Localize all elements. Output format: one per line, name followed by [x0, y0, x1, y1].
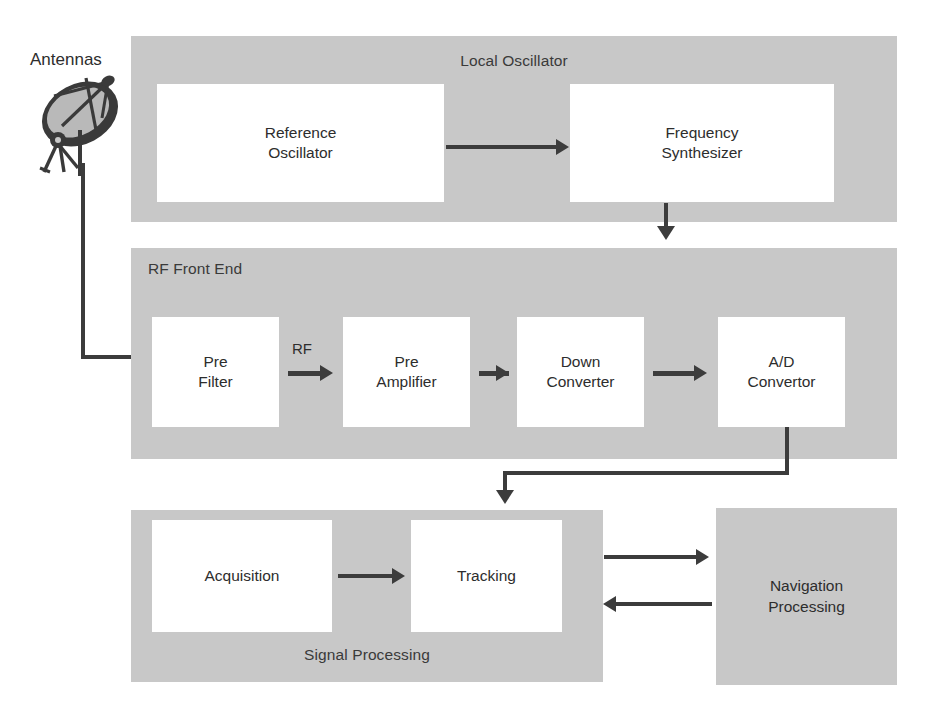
arrow-acquisition-to-tracking-head: [392, 568, 405, 584]
block-navigation-processing-line1: Navigation: [768, 576, 845, 596]
block-pre-filter-line2: Filter: [198, 372, 232, 392]
block-tracking-line1: Tracking: [457, 566, 516, 586]
block-navigation-processing-line2: Processing: [768, 597, 845, 617]
rf-signal-label: RF: [292, 340, 312, 357]
diagram-canvas: Antennas Loc: [0, 0, 932, 725]
arrow-adconv-to-sigproc-horizontal: [503, 471, 789, 475]
arrow-navproc-to-sigproc-line: [616, 602, 712, 606]
block-acquisition[interactable]: Acquisition: [152, 520, 332, 632]
block-pre-amplifier[interactable]: Pre Amplifier: [343, 317, 470, 427]
block-pre-filter[interactable]: Pre Filter: [152, 317, 279, 427]
arrow-adconv-to-sigproc-vertical-right: [785, 427, 789, 475]
panel-title-signal-processing: Signal Processing: [131, 646, 603, 664]
block-down-converter-line1: Down: [546, 352, 614, 372]
block-pre-amplifier-line1: Pre: [376, 352, 436, 372]
block-reference-oscillator-line2: Oscillator: [265, 143, 337, 163]
arrow-navproc-to-sigproc-head: [603, 596, 616, 612]
arrow-sigproc-to-navproc-line: [604, 555, 700, 559]
block-frequency-synthesizer-line2: Synthesizer: [662, 143, 743, 163]
block-tracking[interactable]: Tracking: [411, 520, 562, 632]
antenna-feed-vertical-line: [81, 163, 85, 359]
block-frequency-synthesizer[interactable]: Frequency Synthesizer: [570, 84, 834, 202]
antenna-label: Antennas: [30, 50, 102, 70]
arrow-downconv-to-adconv-line: [653, 371, 699, 376]
block-ad-convertor[interactable]: A/D Convertor: [718, 317, 845, 427]
block-reference-oscillator[interactable]: Reference Oscillator: [157, 84, 444, 202]
satellite-dish-icon: [34, 68, 130, 178]
block-ad-convertor-line1: A/D: [747, 352, 815, 372]
arrow-downconv-to-adconv-head: [694, 365, 707, 381]
arrow-refosc-to-freqsynth-head: [556, 139, 569, 155]
arrow-prefilter-to-preamp-head: [320, 365, 333, 381]
panel-title-local-oscillator: Local Oscillator: [131, 52, 897, 70]
block-pre-amplifier-line2: Amplifier: [376, 372, 436, 392]
block-pre-filter-line1: Pre: [198, 352, 232, 372]
block-reference-oscillator-line1: Reference: [265, 123, 337, 143]
arrow-sigproc-to-navproc-head: [696, 549, 709, 565]
arrow-refosc-to-freqsynth-line: [446, 145, 558, 149]
arrow-prefilter-to-preamp-line: [288, 371, 323, 376]
arrow-preamp-to-downconv-head: [496, 365, 509, 381]
block-down-converter-line2: Converter: [546, 372, 614, 392]
panel-title-rf-front-end: RF Front End: [148, 260, 242, 278]
arrow-adconv-to-sigproc-head: [496, 490, 514, 504]
block-navigation-processing[interactable]: Navigation Processing: [716, 508, 897, 685]
block-acquisition-line1: Acquisition: [205, 566, 280, 586]
arrow-lo-to-rf-head: [657, 226, 675, 240]
arrow-acquisition-to-tracking-line: [338, 574, 396, 578]
block-ad-convertor-line2: Convertor: [747, 372, 815, 392]
block-down-converter[interactable]: Down Converter: [517, 317, 644, 427]
block-frequency-synthesizer-line1: Frequency: [662, 123, 743, 143]
